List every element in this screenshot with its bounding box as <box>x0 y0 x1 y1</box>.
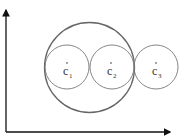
enclosing-circle <box>45 23 135 113</box>
label-c3-letter: c <box>152 64 157 78</box>
label-c3-subscript: 3 <box>158 72 162 80</box>
label-c1: c 1 <box>63 62 73 80</box>
label-c2: c 2 <box>107 62 117 80</box>
label-c2-letter: c <box>107 64 112 78</box>
label-c1-letter: c <box>63 64 68 78</box>
diagram-canvas: c 1 c 2 c 3 <box>0 0 185 138</box>
label-c3: c 3 <box>152 62 162 80</box>
label-c2-subscript: 2 <box>113 72 117 80</box>
label-c1-subscript: 1 <box>69 72 73 80</box>
